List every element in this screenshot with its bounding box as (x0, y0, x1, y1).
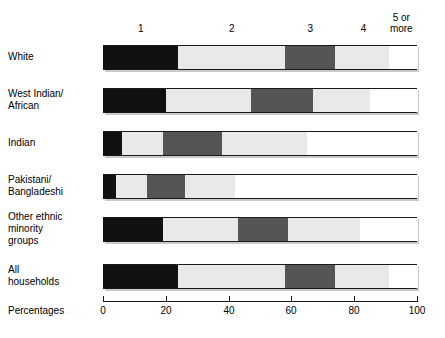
bar-segment (163, 132, 224, 155)
bar-segment (185, 175, 236, 198)
column-header-5-or-more: 5 or more (379, 12, 423, 34)
bar-segment (103, 175, 117, 198)
bar-segment (166, 89, 252, 112)
bar-segment (122, 132, 164, 155)
x-axis-tick-label: 60 (276, 305, 306, 316)
bar-segment (370, 89, 418, 112)
x-axis-tick (417, 296, 418, 302)
bar-segment (313, 89, 371, 112)
row-label-pakistani-bangladeshi: Pakistani/ Bangladeshi (8, 174, 96, 198)
x-axis-line (103, 301, 418, 302)
bar-segment (251, 89, 315, 112)
bar-segment (163, 218, 239, 241)
x-axis-tick (291, 296, 292, 302)
x-axis-tick (103, 296, 104, 302)
bar-segment (178, 265, 286, 288)
bar-segment (116, 175, 148, 198)
bar-row (103, 174, 417, 199)
x-axis-title: Percentages (8, 305, 64, 316)
bar-row (103, 131, 417, 156)
bar-segment (288, 218, 361, 241)
bar-segment (389, 46, 418, 69)
x-axis-tick-label: 0 (88, 305, 118, 316)
column-header-1: 1 (119, 23, 163, 34)
bar-segment (103, 46, 179, 69)
bar-segment (178, 46, 286, 69)
x-axis-tick-label: 80 (339, 305, 369, 316)
bar-segment (335, 265, 389, 288)
x-axis-tick (166, 296, 167, 302)
bar-segment (335, 46, 389, 69)
bar-segment (307, 132, 418, 155)
row-label-white: White (8, 51, 96, 63)
row-label-indian: Indian (8, 137, 96, 149)
bar-segment (103, 265, 179, 288)
row-label-all-households: All households (8, 264, 96, 288)
bar-segment (103, 218, 164, 241)
stacked-bar-chart: 1 2 3 4 5 or more White West Indian/ Afr… (0, 0, 445, 338)
x-axis-tick-label: 20 (151, 305, 181, 316)
column-header-2: 2 (210, 23, 254, 34)
column-header-3: 3 (288, 23, 332, 34)
bar-row (103, 88, 417, 113)
bar-segment (285, 265, 336, 288)
row-label-other-ethnic-minority-groups: Other ethnic minority groups (8, 211, 96, 247)
bar-segment (147, 175, 186, 198)
x-axis-tick (229, 296, 230, 302)
bar-segment (103, 132, 123, 155)
bar-row (103, 264, 417, 289)
bar-segment (238, 218, 289, 241)
bar-segment (285, 46, 336, 69)
bar-segment (360, 218, 418, 241)
bar-segment (235, 175, 418, 198)
x-axis-tick-label: 40 (214, 305, 244, 316)
bar-row (103, 217, 417, 242)
bar-row (103, 45, 417, 70)
bar-segment (103, 89, 167, 112)
x-axis-tick-label: 100 (402, 305, 432, 316)
bar-segment (222, 132, 308, 155)
bar-segment (389, 265, 418, 288)
row-label-west-indian-african: West Indian/ African (8, 88, 96, 112)
x-axis-tick (354, 296, 355, 302)
